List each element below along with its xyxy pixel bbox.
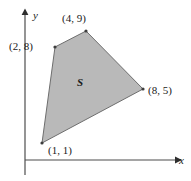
vertex-dot-1-1 [40, 141, 43, 144]
region-name-label: S [77, 77, 83, 88]
vertex-dot-8-5 [141, 87, 144, 90]
vertex-label-8-5: (8, 5) [148, 85, 172, 96]
x-axis-label: x [179, 155, 184, 166]
vertex-label-2-8: (2, 8) [9, 41, 33, 52]
vertex-dot-2-8 [53, 45, 56, 48]
y-axis-arrowhead [22, 9, 29, 16]
figure-canvas: (4, 9) (2, 8) (8, 5) (1, 1) y x S [0, 0, 191, 181]
vertex-label-4-9: (4, 9) [62, 13, 86, 24]
vertex-dot-4-9 [84, 29, 87, 32]
region-polygon-s [42, 31, 143, 143]
y-axis-label: y [33, 10, 38, 21]
vertex-label-1-1: (1, 1) [48, 145, 72, 156]
